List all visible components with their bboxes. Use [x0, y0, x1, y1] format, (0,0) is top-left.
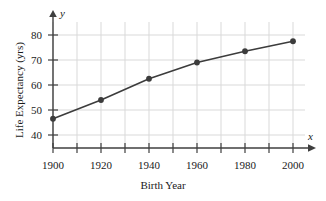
- x-axis-title: Birth Year: [0, 180, 326, 191]
- chart-figure: 80 70 60 50 40 1900 1920 1940 1960 1980 …: [0, 0, 326, 201]
- x-axis: [53, 144, 316, 152]
- y-axis: [49, 10, 57, 148]
- x-tick-label-2000: 2000: [269, 160, 317, 171]
- data-point: [242, 48, 248, 54]
- x-tick-label-1960: 1960: [173, 160, 221, 171]
- y-tick-label-80: 80: [20, 30, 42, 41]
- data-point: [290, 38, 296, 44]
- y-axis-title: Life Expectancy (yrs): [14, 42, 25, 138]
- x-tick-label-1920: 1920: [77, 160, 125, 171]
- data-point: [146, 76, 152, 82]
- horizontal-gridlines: [53, 35, 305, 135]
- data-point: [194, 60, 200, 66]
- y-variable-label: y: [60, 8, 65, 19]
- data-point: [98, 97, 104, 103]
- x-tick-label-1980: 1980: [221, 160, 269, 171]
- x-tick-label-1940: 1940: [125, 160, 173, 171]
- x-tick-label-1900: 1900: [29, 160, 77, 171]
- data-point: [50, 116, 56, 122]
- x-variable-label: x: [308, 131, 313, 142]
